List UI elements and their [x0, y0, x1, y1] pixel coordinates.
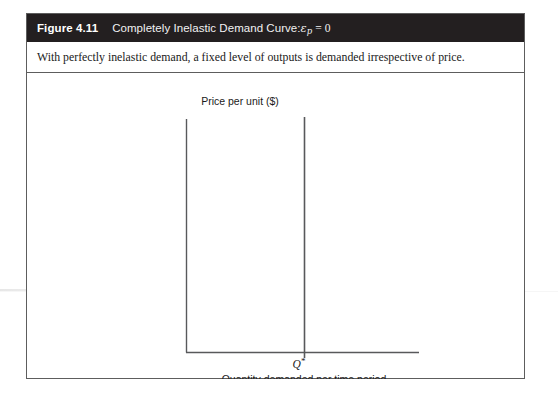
q-star-label: Q*: [293, 356, 306, 370]
figure-header-bar: Figure 4.11 Completely Inelastic Demand …: [27, 14, 524, 42]
figure-caption-band: With perfectly inelastic demand, a fixed…: [27, 42, 524, 73]
x-axis-label: Quantity demanded per time period: [222, 373, 387, 379]
figure-caption: With perfectly inelastic demand, a fixed…: [37, 50, 465, 65]
figure-number: Figure 4.11: [37, 22, 98, 34]
chart-plot-area: Price per unit ($) Q* Quantity demanded …: [27, 73, 524, 379]
figure-box: Figure 4.11 Completely Inelastic Demand …: [26, 13, 525, 379]
demand-curve-chart: Price per unit ($) Q* Quantity demanded …: [27, 73, 524, 379]
figure-title: Completely Inelastic Demand Curve:εp = 0: [112, 21, 330, 36]
elasticity-equals-zero: = 0: [312, 22, 330, 34]
figure-title-text: Completely Inelastic Demand Curve:: [112, 22, 300, 34]
y-axis-label: Price per unit ($): [201, 95, 279, 107]
